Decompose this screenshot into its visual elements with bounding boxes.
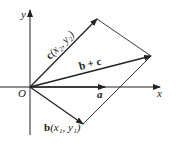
vector-diagram: y x O a b + c c(x₂, y₂) b(x₁, y₁) (0, 0, 176, 153)
vector-b (30, 87, 83, 124)
parallelogram-edge-top (97, 19, 151, 56)
vector-b-label: b(x₁, y₁) (44, 121, 81, 134)
vector-a-label: a (97, 88, 103, 100)
origin-label: O (18, 87, 26, 99)
vector-c (30, 19, 97, 87)
y-axis-label: y (20, 8, 26, 20)
x-axis-label: x (156, 87, 162, 99)
